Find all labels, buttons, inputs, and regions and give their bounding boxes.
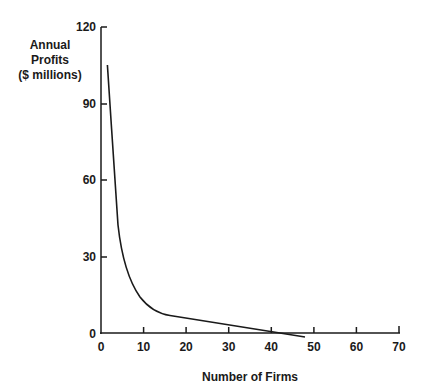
x-axis-title: Number of Firms <box>202 370 298 384</box>
x-tick-label-40: 40 <box>265 340 279 354</box>
y-tick-label-0: 0 <box>89 327 96 341</box>
x-tick-label-50: 50 <box>307 340 321 354</box>
x-tick-label-60: 60 <box>350 340 364 354</box>
x-tick-label-10: 10 <box>137 340 151 354</box>
x-tick-label-30: 30 <box>222 340 236 354</box>
svg-text:($ millions): ($ millions) <box>18 68 81 82</box>
y-tick-label-60: 60 <box>83 173 97 187</box>
x-tick-label-20: 20 <box>179 340 193 354</box>
svg-text:Profits: Profits <box>31 53 69 67</box>
y-axis-title: Annual Profits ($ millions) <box>18 38 81 82</box>
y-tick-label-90: 90 <box>83 97 97 111</box>
profit-curve <box>107 65 305 337</box>
y-ticks <box>101 27 107 257</box>
x-tick-label-70: 70 <box>392 340 406 354</box>
svg-text:Annual: Annual <box>30 38 71 52</box>
x-tick-label-0: 0 <box>98 340 105 354</box>
chart: 120 90 60 30 0 0 10 20 30 40 50 60 70 An… <box>0 0 425 390</box>
y-tick-label-30: 30 <box>83 250 97 264</box>
y-tick-label-120: 120 <box>76 20 96 34</box>
